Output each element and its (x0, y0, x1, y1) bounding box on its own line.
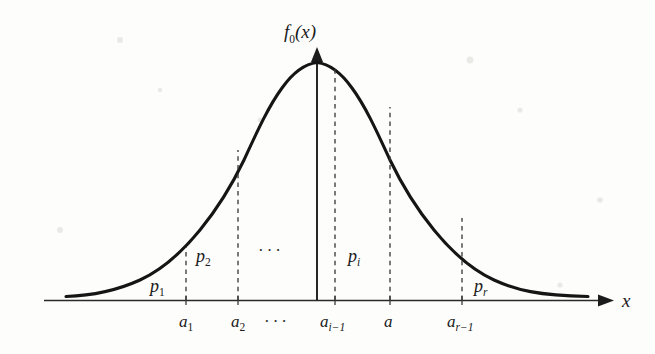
tick-label-a1: a1 (179, 312, 194, 333)
y-axis-label-argument: (x) (295, 21, 316, 43)
x-axis (44, 295, 614, 307)
axis-ellipsis: ··· (264, 312, 290, 331)
interval-dividers (186, 66, 462, 300)
tick-label-a: a (384, 312, 393, 331)
region-label-p1: p1 (148, 276, 165, 298)
tick-label-a2: a2 (231, 312, 246, 333)
x-axis-label: x (621, 290, 631, 311)
region-label-pr: pr (472, 276, 488, 298)
region-label-p2: p2 (194, 246, 211, 268)
tick-label-ar-minus-1: ar−1 (447, 312, 474, 333)
y-axis-label: f0(x) (284, 21, 316, 45)
figure-container: x f0(x) p1 (0, 0, 655, 354)
region-ellipsis: ··· (258, 241, 284, 260)
y-axis (311, 47, 323, 301)
paper-texture (57, 37, 603, 288)
normal-distribution-diagram: x f0(x) p1 (0, 0, 655, 354)
region-label-pi: pi (346, 246, 360, 268)
density-curve (66, 63, 588, 297)
tick-label-ai-minus-1: ai−1 (320, 312, 345, 333)
